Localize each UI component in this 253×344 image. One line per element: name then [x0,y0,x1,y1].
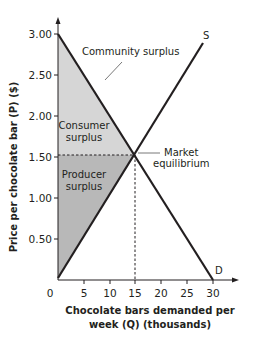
x-axis-title: week (Q) (thousands) [89,319,211,330]
supply-demand-chart: 0.50 1.00 1.50 2.00 2.50 3.00 0 5 10 15 … [0,0,253,344]
consumer-surplus-label: surplus [66,132,102,143]
x-axis-title: Chocolate bars demanded per [65,305,234,316]
x-ticks [84,280,213,284]
y-tick-label: 1.00 [29,192,52,204]
demand-label: D [215,265,223,276]
y-tick-label: 0.50 [29,233,52,245]
community-surplus-leader [105,62,122,80]
y-ticks [54,34,58,239]
producer-surplus-label: Producer [62,169,107,180]
x-tick-label: 20 [154,287,167,299]
y-tick-label: 2.50 [29,69,52,81]
y-axis-arrow-icon [56,17,61,24]
y-tick-label: 1.50 [29,151,52,163]
y-axis-title: Price per chocolate bar (P) ($) [8,82,19,253]
x-tick-label: 5 [81,287,88,299]
y-tick-label: 3.00 [29,28,52,40]
equilibrium-label: equilibrium [153,158,210,169]
producer-surplus-label: surplus [66,181,102,192]
x-tick-label: 30 [206,287,219,299]
community-surplus-label: Community surplus [82,46,179,57]
y-tick-label: 2.00 [29,110,52,122]
x-axis-arrow-icon [232,278,239,283]
equilibrium-label: Market [164,147,198,158]
x-tick-label: 15 [128,287,141,299]
x-tick-label: 10 [103,287,116,299]
origin-label: 0 [47,287,54,299]
consumer-surplus-label: Consumer [59,120,111,131]
supply-label: S [203,30,209,41]
x-tick-label: 25 [180,287,193,299]
